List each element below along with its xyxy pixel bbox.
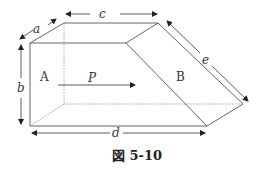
dimension-label-d: d xyxy=(112,126,120,140)
figure-caption: 図 5-10 xyxy=(112,148,162,163)
dimension-label-c: c xyxy=(99,7,106,21)
flow-label-p: P xyxy=(87,71,97,85)
region-label-b: B xyxy=(176,70,185,84)
solid-edges xyxy=(30,23,243,126)
dimension-arrows xyxy=(20,14,248,133)
dimension-label-a: a xyxy=(33,22,40,36)
region-label-a: A xyxy=(39,70,49,84)
dimension-label-b: b xyxy=(17,81,25,95)
pipe-diagram: c a b d e A B P 図 5-10 xyxy=(0,0,265,171)
hidden-edges xyxy=(30,23,243,126)
dimension-label-e: e xyxy=(202,53,209,67)
